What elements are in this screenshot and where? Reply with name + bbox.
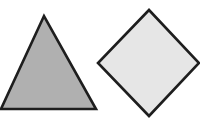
shapes-svg — [0, 0, 200, 122]
diamond-shape — [98, 10, 199, 116]
diagram-canvas — [0, 0, 200, 122]
triangle-shape — [1, 16, 96, 109]
